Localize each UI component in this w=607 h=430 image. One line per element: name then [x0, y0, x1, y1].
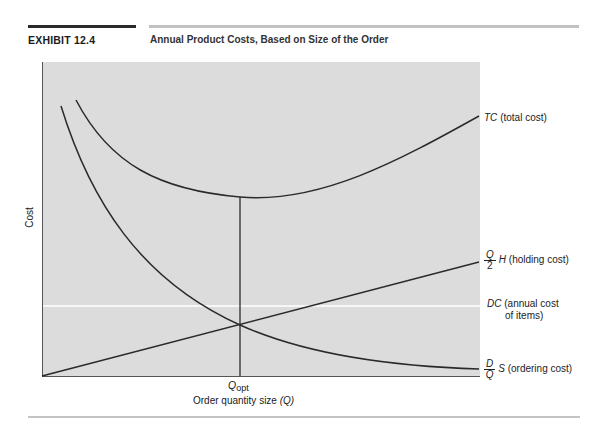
legend-total-cost: TC (total cost) [484, 112, 547, 123]
holding-fraction: Q 2 [484, 250, 496, 271]
y-axis-label: Cost [24, 207, 35, 228]
legend-ordering-cost: D Q S (ordering cost) [484, 359, 572, 380]
footer-rule [28, 416, 580, 418]
legend-holding-cost: Q 2 H (holding cost) [484, 250, 569, 271]
x-axis-label: Order quantity size (Q) [193, 395, 294, 406]
qopt-tick-label: Qopt [228, 379, 249, 393]
ordering-fraction: D Q [484, 359, 495, 380]
legend-annual-cost: DC (annual cost of items) [487, 298, 559, 322]
plot-area [42, 62, 480, 376]
